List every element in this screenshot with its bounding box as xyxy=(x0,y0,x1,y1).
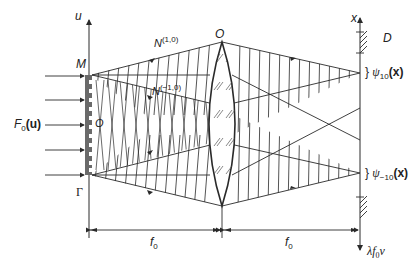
grating-center-label: O xyxy=(95,118,104,129)
beam-upper-label: N(1,0) xyxy=(154,36,178,49)
focal-length-left-label: f0 xyxy=(150,236,158,251)
u-axis-label: u xyxy=(75,10,82,22)
stop-upper xyxy=(356,31,367,53)
grating-bottom-label: Γ xyxy=(76,186,83,198)
frequency-axis-label: λf0ν xyxy=(367,245,385,260)
incident-arrows xyxy=(45,76,84,175)
x-axis-label: x xyxy=(351,12,357,24)
beam-lower-label: N(−1,0) xyxy=(152,84,181,97)
focal-length-right-label: f0 xyxy=(285,236,293,251)
input-field-label: F0(u) xyxy=(14,118,41,133)
lens xyxy=(209,42,235,206)
grating-top-label: M xyxy=(76,58,86,70)
focus-lower-label: } ψ−10(x) xyxy=(365,167,408,182)
optical-diagram xyxy=(0,0,417,264)
grating xyxy=(85,75,92,175)
lens-center-label: O xyxy=(215,28,224,40)
hatch-lower-right xyxy=(238,110,350,210)
stop-label: D xyxy=(383,32,392,44)
stop-lower xyxy=(356,196,367,218)
focus-upper-label: } ψ10(x) xyxy=(365,66,403,81)
hatch-upper-right xyxy=(238,40,350,140)
dimension-lines xyxy=(90,206,358,238)
